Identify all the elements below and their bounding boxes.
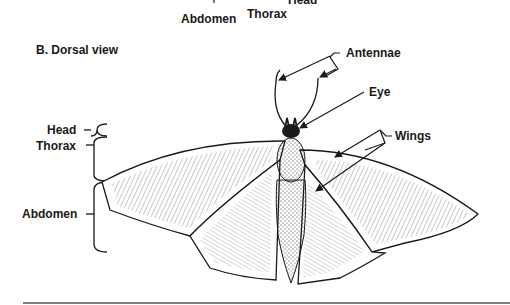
moth-illustration [0,0,510,305]
thorax [277,138,305,182]
